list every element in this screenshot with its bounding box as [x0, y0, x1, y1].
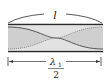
- diagram-canvas: l λ 1 2: [0, 0, 112, 81]
- length-label: l: [53, 9, 57, 22]
- wavelength-denominator: 2: [53, 70, 59, 80]
- wave-region: [8, 26, 103, 50]
- wavelength-symbol: λ: [49, 56, 56, 67]
- wavelength-subscript: 1: [58, 61, 62, 68]
- standing-wave-diagram: l λ 1 2: [0, 0, 112, 81]
